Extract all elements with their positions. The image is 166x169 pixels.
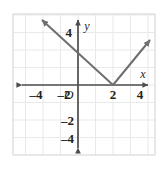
- graph-canvas: –4 –2 2 4 4 –2 –4 O x y: [0, 0, 166, 169]
- x-tick-label-4: 4: [137, 87, 144, 102]
- y-tick-label-4: 4: [66, 25, 73, 40]
- y-tick-label--4: –4: [60, 131, 75, 146]
- x-tick-label--4: –4: [29, 87, 44, 102]
- x-axis-label: x: [139, 67, 146, 81]
- x-tick-label-2: 2: [110, 87, 117, 102]
- y-tick-label--2: –2: [60, 113, 74, 128]
- origin-label: O: [64, 87, 74, 102]
- y-axis-label: y: [83, 19, 90, 33]
- coordinate-graph-figure: –4 –2 2 4 4 –2 –4 O x y: [0, 0, 166, 169]
